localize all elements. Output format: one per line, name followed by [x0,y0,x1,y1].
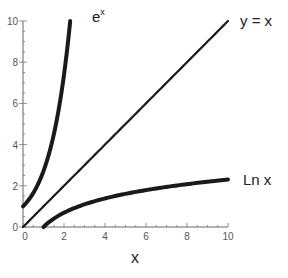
x-axis-title: x [131,249,139,266]
y-tick-label: 6 [12,98,18,109]
curve-identity [23,21,228,227]
y-tick-label: 4 [12,140,18,151]
x-tick-label: 10 [222,231,234,242]
curves [23,21,228,227]
y-tick-label: 10 [7,16,19,27]
x-tick-label: 8 [184,231,190,242]
curve-exp [23,21,70,206]
x-tick-label: 6 [143,231,149,242]
curve-label-ln: Ln x [243,171,272,188]
x-tick-label: 2 [61,231,67,242]
y-tick-label: 2 [12,181,18,192]
curve-ln [44,180,229,227]
curve-label-identity: y = x [240,12,273,29]
x-tick-label: 4 [102,231,108,242]
curve-label-exp: ex [92,7,105,25]
x-tick-label: 0 [22,231,28,242]
y-tick-label: 8 [12,57,18,68]
function-chart: 02468100246810 ex y = x Ln x x [0,0,288,278]
y-tick-label: 0 [12,222,18,233]
